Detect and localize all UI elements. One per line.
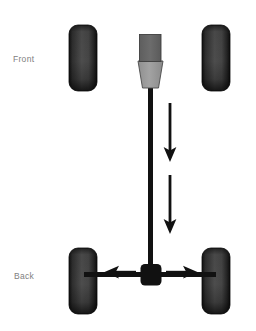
tire-rear-left bbox=[69, 248, 97, 314]
driveshaft bbox=[148, 80, 153, 276]
tire-front-right bbox=[202, 25, 230, 91]
tire-rear-right bbox=[202, 248, 230, 314]
diagram-canvas bbox=[0, 0, 256, 331]
arrow-driveshaft-lower bbox=[164, 175, 177, 234]
arrow-driveshaft-upper bbox=[164, 103, 177, 162]
tire-front-left bbox=[69, 25, 97, 91]
transmission-housing bbox=[138, 61, 163, 88]
rear-differential bbox=[141, 264, 162, 286]
engine-block bbox=[140, 35, 162, 62]
powertrain-diagram: Front Back bbox=[0, 0, 256, 331]
